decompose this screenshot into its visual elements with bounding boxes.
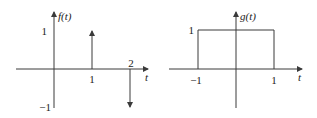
g-ytick-1: 1 bbox=[189, 24, 195, 36]
f-xtick-1: 1 bbox=[89, 73, 95, 85]
g-xtick-neg1: −1 bbox=[190, 74, 202, 86]
f-ytick-1: 1 bbox=[42, 25, 48, 37]
g-title: g(t) bbox=[240, 10, 256, 23]
g-xtick-1: 1 bbox=[271, 74, 277, 86]
f-title: f(t) bbox=[58, 10, 72, 23]
plot-g: g(t) 1 −1 1 t bbox=[169, 10, 302, 108]
g-x-label: t bbox=[298, 71, 302, 83]
f-xtick-2: 2 bbox=[128, 57, 134, 69]
f-ytick-neg1: −1 bbox=[39, 101, 51, 113]
signal-diagrams: f(t) 1 −1 1 2 t g(t) 1 −1 1 t bbox=[0, 0, 317, 118]
f-x-label: t bbox=[145, 71, 149, 83]
plot-f: f(t) 1 −1 1 2 t bbox=[16, 10, 149, 113]
